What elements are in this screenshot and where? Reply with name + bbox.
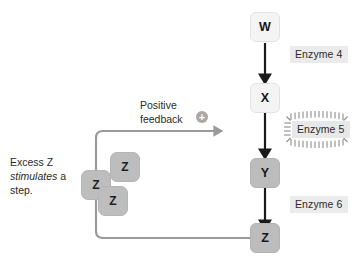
excess-z-line2-rest: a xyxy=(57,170,66,182)
excess-z-line2: stimulates a xyxy=(10,169,66,183)
excess-z-line3: step. xyxy=(10,183,66,197)
pathway-node-y: Y xyxy=(250,158,280,188)
enzyme-label-6: Enzyme 6 xyxy=(290,196,348,213)
excess-z-line2-italic: stimulates xyxy=(10,170,57,182)
excess-z-annotation: Excess Z stimulates a step. xyxy=(10,155,66,197)
pathway-node-z-label: Z xyxy=(261,231,269,245)
free-molecule-z-lower: Z xyxy=(98,186,128,216)
pathway-node-x: X xyxy=(250,83,280,113)
positive-feedback-label-line1: Positive xyxy=(140,98,183,112)
pathway-node-w-label: W xyxy=(259,20,271,34)
positive-feedback-path xyxy=(96,131,250,238)
diagram-canvas: W X Y Z Enzyme 4 Enzyme 5 Enzyme 6 Posit… xyxy=(0,0,358,267)
pathway-node-w: W xyxy=(250,12,280,42)
pathway-node-x-label: X xyxy=(261,91,269,105)
excess-z-line1: Excess Z xyxy=(10,155,66,169)
positive-feedback-label-line2: feedback xyxy=(140,112,183,126)
positive-feedback-label: Positive feedback xyxy=(140,98,183,126)
plus-circle-icon: + xyxy=(196,111,208,123)
plus-sign: + xyxy=(199,112,205,123)
free-molecule-z-upper-right: Z xyxy=(110,152,140,182)
pathway-node-y-label: Y xyxy=(261,166,269,180)
pathway-node-z: Z xyxy=(250,223,280,253)
enzyme-label-4: Enzyme 4 xyxy=(290,46,348,63)
enzyme-label-5: Enzyme 5 xyxy=(292,121,350,138)
